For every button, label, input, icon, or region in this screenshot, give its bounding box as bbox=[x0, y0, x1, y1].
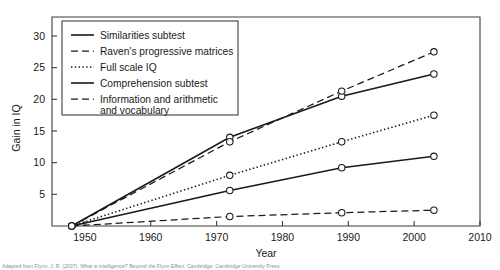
x-tick-label: 1990 bbox=[337, 231, 361, 243]
data-point-marker bbox=[227, 187, 233, 193]
legend-label-4: Information and arithmetic bbox=[100, 94, 218, 105]
legend-label-2: Full scale IQ bbox=[100, 62, 157, 73]
series-3 bbox=[69, 153, 438, 229]
data-point-marker bbox=[227, 139, 233, 145]
y-axis-ticks: 51015202530 bbox=[33, 30, 57, 200]
x-axis-ticks: 1950196019701980199020002010 bbox=[73, 221, 492, 243]
y-tick-label: 10 bbox=[33, 156, 45, 168]
x-tick-label: 1980 bbox=[271, 231, 295, 243]
chart-legend: Similarities subtestRaven's progressive … bbox=[62, 21, 238, 116]
y-axis-title: Gain in IQ bbox=[10, 104, 22, 151]
figure-container: 51015202530 1950196019701980199020002010… bbox=[0, 0, 500, 270]
data-point-marker bbox=[431, 207, 437, 213]
data-point-marker bbox=[339, 210, 345, 216]
iq-gain-line-chart: 51015202530 1950196019701980199020002010… bbox=[0, 0, 500, 270]
series-line bbox=[72, 210, 434, 226]
figure-source-caption: Adapted from Flynn, J. R. (2007). What i… bbox=[0, 263, 500, 270]
x-tick-label: 1960 bbox=[139, 231, 163, 243]
y-tick-label: 5 bbox=[39, 188, 45, 200]
data-point-marker bbox=[227, 172, 233, 178]
y-tick-label: 30 bbox=[33, 30, 45, 42]
x-tick-label: 2000 bbox=[402, 231, 426, 243]
x-tick-label: 2010 bbox=[468, 231, 492, 243]
x-tick-label: 1970 bbox=[205, 231, 229, 243]
data-point-marker bbox=[431, 153, 437, 159]
data-point-marker bbox=[431, 49, 437, 55]
data-point-marker bbox=[339, 165, 345, 171]
x-axis-title: Year bbox=[255, 247, 277, 259]
data-point-marker bbox=[431, 112, 437, 118]
y-tick-label: 15 bbox=[33, 125, 45, 137]
data-point-marker bbox=[227, 213, 233, 219]
legend-label-3: Comprehension subtest bbox=[100, 78, 208, 89]
data-point-marker bbox=[339, 139, 345, 145]
y-tick-label: 20 bbox=[33, 93, 45, 105]
legend-label-4-line2: and vocabulary bbox=[100, 105, 170, 116]
data-point-marker bbox=[431, 71, 437, 77]
y-tick-label: 25 bbox=[33, 61, 45, 73]
legend-label-0: Similarities subtest bbox=[100, 30, 185, 41]
data-point-marker bbox=[339, 88, 345, 94]
x-tick-label: 1950 bbox=[73, 231, 97, 243]
legend-label-1: Raven's progressive matrices bbox=[100, 46, 233, 57]
data-point-marker bbox=[69, 223, 75, 229]
